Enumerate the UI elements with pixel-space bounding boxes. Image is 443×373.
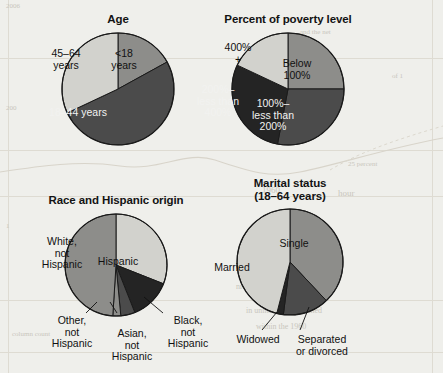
callout-label-marital-0: Widowed	[222, 334, 294, 346]
uninsured-population-pie-figure: 2006and the netof 120025 percent1960hour…	[0, 0, 443, 373]
callout-label-marital-1: Separated or divorced	[286, 334, 358, 357]
chart-panel-marital: Marital status (18–64 years)SingleMarrie…	[0, 0, 443, 373]
callout-leader-marital-0	[262, 312, 277, 330]
pie-marital	[0, 0, 443, 373]
